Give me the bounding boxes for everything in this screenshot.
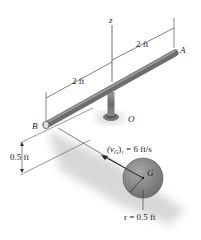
point-G-label: G <box>147 168 154 178</box>
point-O-label: O <box>128 114 135 124</box>
point-A-label: A <box>179 45 186 55</box>
rod-end-B <box>43 121 49 128</box>
dim-label-OB: 2 ft <box>72 76 85 86</box>
post <box>108 92 115 116</box>
shadow <box>48 130 185 225</box>
diagram-canvas: z 2 ft 2 ft A B O 0.5 ft G (vG)1 = 6 ft/… <box>0 0 201 240</box>
height-label: 0.5 ft <box>10 152 29 162</box>
dim-label-OA: 2 ft <box>136 39 149 49</box>
z-axis-label: z <box>108 15 113 25</box>
velocity-label: (vG)1 = 6 ft/s <box>107 144 152 155</box>
radius-label: r = 0.5 ft <box>124 212 156 222</box>
point-B-label: B <box>32 121 38 131</box>
